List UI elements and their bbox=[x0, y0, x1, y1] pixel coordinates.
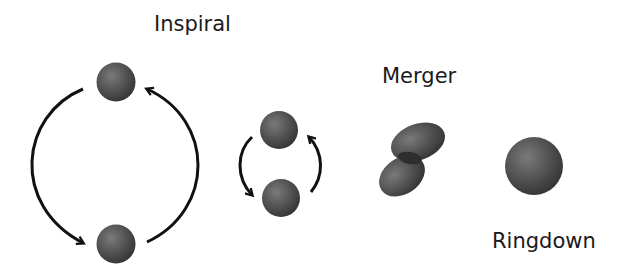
black-hole-tight-bottom-icon bbox=[262, 179, 300, 217]
stage-label-inspiral: Inspiral bbox=[154, 12, 231, 36]
inspiral-tight-orbit bbox=[240, 111, 321, 217]
black-hole-bottom-icon bbox=[97, 225, 136, 264]
stage-label-ringdown: Ringdown bbox=[492, 229, 596, 253]
orbit-arrow-right bbox=[147, 89, 198, 242]
orbit-arrow-left bbox=[32, 89, 83, 243]
inspiral-wide-orbit bbox=[32, 63, 198, 264]
black-hole-tight-top-icon bbox=[260, 111, 298, 149]
merger-shape-icon bbox=[371, 116, 450, 206]
black-hole-top-icon bbox=[97, 63, 136, 102]
tight-orbit-arrow-right bbox=[309, 137, 321, 192]
ringdown-black-hole-icon bbox=[505, 137, 563, 195]
stage-label-merger: Merger bbox=[382, 64, 456, 88]
tight-orbit-arrow-left bbox=[240, 137, 252, 195]
